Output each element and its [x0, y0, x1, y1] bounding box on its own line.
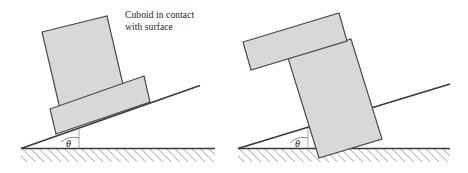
- right-panel-cylinder: θ Cylinder in contact with surface: [234, 0, 468, 173]
- left-panel-drawing: θ: [0, 0, 234, 173]
- left-panel-caption: Cuboid in contact with surface: [125, 10, 194, 33]
- left-panel-cuboid: θ Cuboid in contact with surface: [0, 0, 234, 173]
- right-panel-drawing: θ: [234, 0, 468, 173]
- lower-cylinder-block: [288, 39, 382, 158]
- figure-canvas: θ Cuboid in contact with surface: [0, 0, 468, 173]
- angle-label-theta: θ: [66, 138, 71, 149]
- angle-label-theta: θ: [295, 138, 300, 149]
- ground-hatched-band: [21, 149, 215, 163]
